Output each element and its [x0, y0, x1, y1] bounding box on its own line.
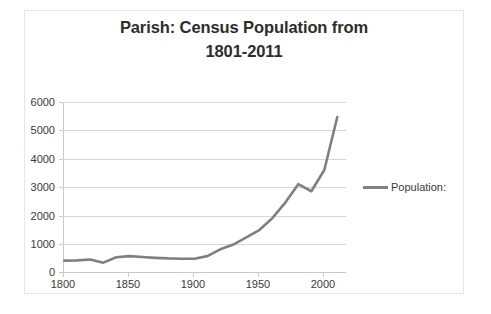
- series-population-line: [64, 117, 337, 263]
- legend-swatch-population: [363, 186, 388, 189]
- legend-label-population: Population:: [391, 181, 446, 193]
- series-population: [0, 0, 491, 314]
- legend: Population:: [363, 181, 446, 193]
